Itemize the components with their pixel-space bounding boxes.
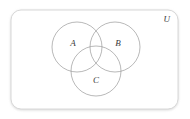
set-label-c: C (93, 75, 100, 85)
venn-diagram-figure: A B C U (0, 0, 190, 119)
set-label-b: B (115, 38, 121, 48)
universal-set-label: U (164, 14, 171, 24)
venn-diagram-canvas: A B C U (0, 0, 190, 119)
set-label-a: A (69, 38, 76, 48)
universal-set-frame (11, 10, 178, 109)
